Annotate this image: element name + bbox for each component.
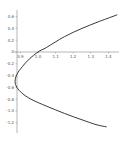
- y-tick-label: -0.2: [6, 61, 14, 66]
- y-tick-label: 0.6: [8, 14, 15, 19]
- y-tick-label: -0.6: [6, 85, 14, 90]
- y-axis-ticks: 0.60.40.20-0.2-0.4-0.6-0.8-1.0-1.2: [6, 14, 17, 125]
- y-tick-label: -1.2: [6, 120, 14, 125]
- parabola-chart: 0.91.01.11.21.31.4 0.60.40.20-0.2-0.4-0.…: [0, 0, 125, 141]
- y-tick-label: 0.2: [8, 38, 15, 43]
- x-axis-ticks: 0.91.01.11.21.31.4: [17, 52, 112, 59]
- y-tick-label: -0.4: [6, 73, 14, 78]
- x-tick-label: 1.1: [52, 54, 59, 59]
- curve-line: [15, 15, 117, 127]
- y-tick-label: -1.0: [6, 108, 14, 113]
- x-tick-label: 1.3: [88, 54, 95, 59]
- x-tick-label: 0.9: [17, 54, 24, 59]
- x-tick-label: 1.4: [105, 54, 112, 59]
- x-tick-label: 1.0: [35, 54, 42, 59]
- y-tick-label: -0.8: [6, 97, 14, 102]
- y-tick-label: 0.4: [8, 26, 15, 31]
- x-tick-label: 1.2: [70, 54, 77, 59]
